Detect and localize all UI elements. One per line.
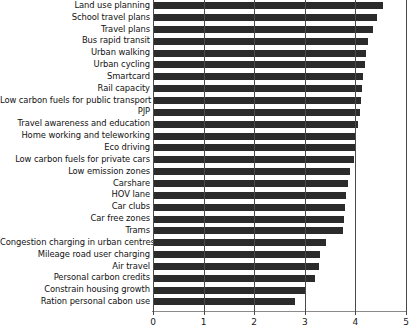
x-axis-line	[152, 311, 406, 312]
bar	[153, 180, 348, 187]
category-label: Car free zones	[0, 213, 150, 225]
category-label: Low carbon fuels for public transport	[0, 95, 150, 107]
bar	[153, 251, 320, 258]
category-label: PJP	[0, 106, 150, 118]
gridline-4	[355, 0, 356, 312]
tick-mark-4	[355, 311, 356, 315]
bar	[153, 2, 383, 9]
tick-mark-5	[406, 311, 407, 315]
category-label: HOV lane	[0, 189, 150, 201]
category-label: Urban cycling	[0, 59, 150, 71]
category-label: Rail capacity	[0, 83, 150, 95]
category-label: Ration personal cabon use	[0, 296, 150, 308]
bar	[153, 38, 368, 45]
category-label: Home working and teleworking	[0, 130, 150, 142]
x-tick-label: 2	[251, 317, 257, 327]
x-tick-label: 1	[201, 317, 207, 327]
category-label: Mileage road user charging	[0, 249, 150, 261]
category-label: Travel awareness and education	[0, 118, 150, 130]
bar	[153, 50, 366, 57]
x-tick-label: 0	[150, 317, 156, 327]
x-tick-label: 4	[353, 317, 359, 327]
plot-area	[153, 0, 406, 312]
category-label: Carshare	[0, 178, 150, 190]
tick-mark-3	[305, 311, 306, 315]
bar	[153, 287, 305, 294]
bar-chart: Land use planningSchool travel plansTrav…	[0, 0, 411, 333]
x-tick-label: 5	[403, 317, 409, 327]
bar	[153, 14, 377, 21]
bar	[153, 263, 319, 270]
category-label: Bus rapid transit	[0, 35, 150, 47]
category-label: Travel plans	[0, 24, 150, 36]
bar	[153, 168, 350, 175]
bar	[153, 298, 295, 305]
tick-mark-2	[254, 311, 255, 315]
gridline-0	[153, 0, 154, 312]
bar	[153, 204, 345, 211]
category-axis-labels: Land use planningSchool travel plansTrav…	[0, 0, 150, 312]
gridline-2	[254, 0, 255, 312]
category-label: School travel plans	[0, 12, 150, 24]
category-label: Constrain housing growth	[0, 284, 150, 296]
category-label: Low carbon fuels for private cars	[0, 154, 150, 166]
gridline-3	[305, 0, 306, 312]
tick-mark-1	[204, 311, 205, 315]
bar	[153, 97, 361, 104]
bar	[153, 61, 365, 68]
bar	[153, 216, 344, 223]
tick-mark-0	[153, 311, 154, 315]
category-label: Smartcard	[0, 71, 150, 83]
bar	[153, 275, 315, 282]
gridline-5	[406, 0, 407, 312]
category-label: Trams	[0, 225, 150, 237]
bar	[153, 85, 362, 92]
gridline-1	[204, 0, 205, 312]
bar	[153, 227, 343, 234]
category-label: Air travel	[0, 261, 150, 273]
bar	[153, 121, 358, 128]
bar	[153, 26, 373, 33]
bar	[153, 73, 363, 80]
bar-layer	[153, 0, 406, 312]
bar	[153, 109, 360, 116]
category-label: Land use planning	[0, 0, 150, 12]
category-label: Urban walking	[0, 47, 150, 59]
category-label: Eco driving	[0, 142, 150, 154]
category-label: Car clubs	[0, 201, 150, 213]
bar	[153, 192, 346, 199]
category-label: Congestion charging in urban centres	[0, 237, 150, 249]
category-label: Low emission zones	[0, 166, 150, 178]
bar	[153, 239, 326, 246]
category-label: Personal carbon credits	[0, 272, 150, 284]
x-tick-label: 3	[302, 317, 308, 327]
